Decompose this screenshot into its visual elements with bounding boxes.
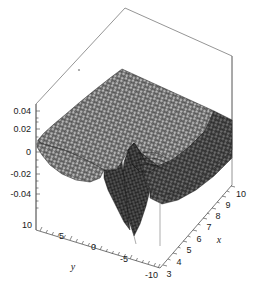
x-minor-3 (198, 224, 201, 225)
y-axis-line (36, 230, 160, 268)
y-minor-4 (76, 239, 78, 242)
surface-plot-figure: 0.04 0.02 0 -0.02 -0.04 (0, 0, 259, 291)
z-tick-label-4: -0.04 (10, 189, 31, 199)
x-tick-label-5: 8 (215, 211, 220, 221)
y-minor-14 (148, 261, 150, 264)
y-minor-5 (82, 241, 84, 244)
x-tick-label-6: 9 (225, 200, 230, 210)
z-tick-label-3: -0.02 (10, 169, 31, 179)
x-minor-0 (168, 259, 171, 260)
y-minor-0 (46, 230, 48, 233)
x-tick-label-4: 7 (206, 222, 211, 232)
y-tick-label-3: -5 (120, 254, 128, 264)
y-tick-2 (100, 246, 102, 250)
y-tick-label-1: 5 (59, 231, 64, 241)
y-tick-label-4: -10 (145, 270, 158, 280)
z-tick-label-0: 0.04 (13, 106, 31, 116)
plot-canvas: 0.04 0.02 0 -0.02 -0.04 (0, 0, 259, 291)
scan-artifact-dot (78, 69, 80, 71)
x-tick-label-7: 10 (236, 189, 246, 199)
y-tick-1 (70, 236, 72, 240)
y-axis: 10 5 0 -5 -10 y (22, 220, 160, 280)
x-tick-4 (203, 218, 207, 219)
x-tick-6 (222, 196, 226, 197)
y-minor-3 (64, 235, 66, 238)
x-tick-2 (183, 241, 187, 242)
x-tick-0 (163, 265, 167, 266)
x-minor-1 (178, 247, 181, 248)
x-tick-label-3: 6 (196, 234, 201, 244)
x-tick-5 (212, 208, 216, 209)
x-tick-7 (231, 186, 235, 187)
x-minor-6 (227, 191, 230, 192)
z-tick-label-2: 0 (26, 147, 31, 157)
y-minor-15 (154, 263, 156, 266)
x-tick-label-2: 5 (186, 245, 191, 255)
x-axis-title: x (216, 234, 222, 245)
y-tick-label-2: 0 (91, 242, 96, 252)
x-tick-label-1: 4 (176, 257, 181, 267)
z-axis: 0.04 0.02 0 -0.02 -0.04 (10, 104, 40, 230)
surface-mesh (37, 69, 232, 246)
y-tick-0 (40, 227, 42, 231)
y-tick-label-0: 10 (22, 220, 32, 230)
y-axis-title: y (70, 261, 76, 272)
x-tick-1 (173, 253, 177, 254)
y-minor-1 (52, 232, 54, 235)
spike-tail (134, 236, 136, 244)
x-minor-5 (217, 202, 220, 203)
y-tick-3 (130, 255, 132, 259)
x-tick-3 (193, 230, 197, 231)
y-minor-6 (88, 243, 90, 246)
z-tick-label-1: 0.02 (13, 124, 31, 134)
x-minor-2 (188, 236, 191, 237)
x-tick-label-0: 3 (166, 269, 171, 279)
